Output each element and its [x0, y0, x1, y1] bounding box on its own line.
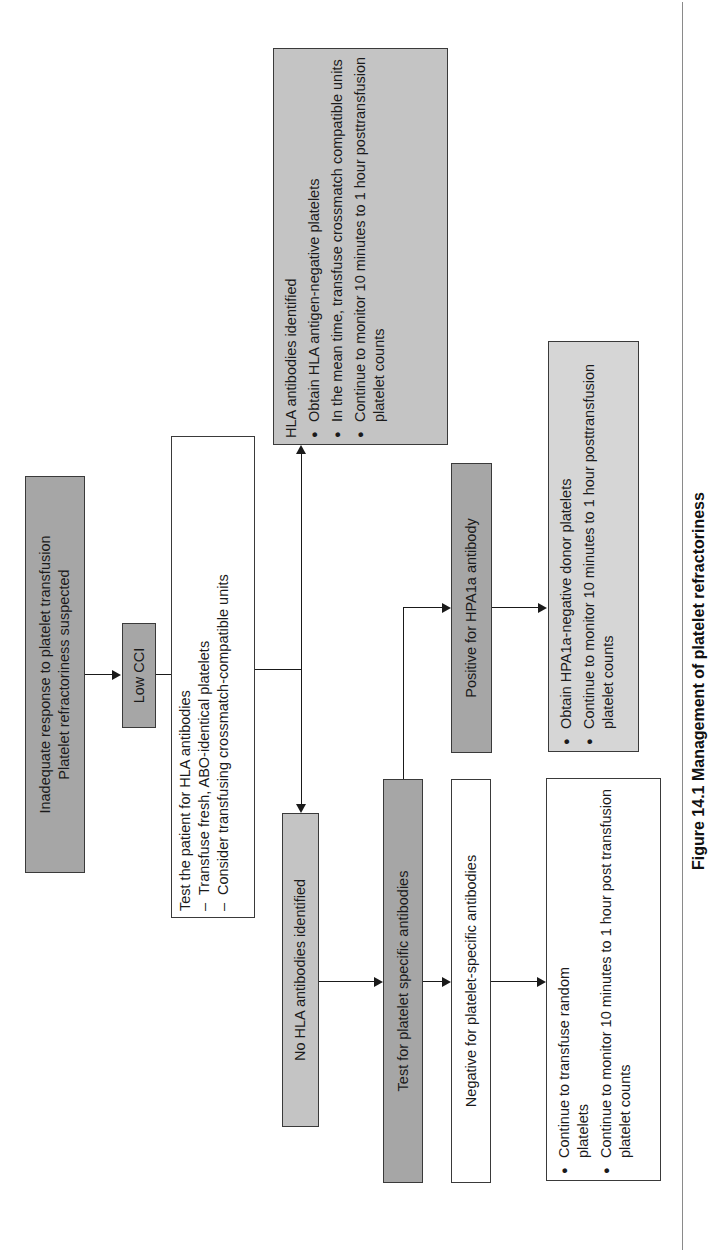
hla-identified-item: In the mean time, transfuse crossmatch c… — [328, 55, 347, 438]
hpa1a-action-item: Obtain HPA1a-negative donor platelets — [557, 348, 576, 745]
hla-identified-list: Obtain HLA antigen-negative platelets In… — [305, 55, 389, 438]
negative-label: Negative for platelet-specific antibodie… — [462, 855, 481, 1107]
test-hla-item: Transfuse fresh, ABO-identical platelets — [195, 443, 214, 911]
arrowhead-icon — [296, 804, 306, 813]
arrowhead-icon — [538, 603, 547, 613]
arrowhead-icon — [112, 670, 121, 680]
low-cci-box: Low CCI — [122, 623, 156, 728]
connector-positive-to-actions — [492, 607, 539, 608]
hla-identified-item: Continue to monitor 10 minutes to 1 hour… — [351, 55, 389, 438]
test-hla-box: Test the patient for HLA antibodies Tran… — [171, 436, 255, 918]
arrowhead-icon — [442, 603, 451, 613]
arrowhead-icon — [296, 445, 306, 454]
negative-actions-box: Continue to transfuse random platelets C… — [546, 778, 661, 1181]
positive-hpa1a-box: Positive for HPA1a antibody — [451, 463, 492, 753]
no-hla-label: No HLA antibodies identified — [291, 879, 310, 1061]
arrowhead-icon — [374, 977, 383, 987]
test-hla-list: Transfuse fresh, ABO-identical platelets… — [195, 443, 233, 911]
figure-caption: Figure 14.1 Management of platelet refra… — [690, 492, 708, 870]
start-line-2: Platelet refractoriness suspected — [55, 569, 74, 779]
connector-testplatelet-to-positive-drop — [403, 607, 443, 608]
test-hla-title: Test the patient for HLA antibodies — [176, 443, 195, 911]
hpa1a-actions-box: Obtain HPA1a-negative donor platelets Co… — [548, 341, 639, 752]
positive-hpa1a-label: Positive for HPA1a antibody — [462, 518, 481, 697]
connector-testplatelet-to-positive — [403, 608, 404, 779]
hpa1a-action-item: Continue to monitor 10 minutes to 1 hour… — [580, 348, 618, 745]
low-cci-label: Low CCI — [130, 648, 149, 704]
connector-lowcci-to-test — [156, 674, 171, 675]
test-hla-item: Consider transfusing crossmatch-compatib… — [214, 443, 233, 911]
caption-rule — [682, 2, 683, 1250]
hpa1a-actions-list: Obtain HPA1a-negative donor platelets Co… — [557, 348, 618, 745]
arrowhead-icon — [442, 977, 451, 987]
test-platelet-specific-label: Test for platelet specific antibodies — [394, 871, 413, 1092]
negative-action-item: Continue to transfuse random platelets — [555, 785, 593, 1174]
junction-line — [301, 454, 302, 804]
negative-actions-list: Continue to transfuse random platelets C… — [555, 785, 635, 1174]
connector-negative-to-actions — [491, 981, 538, 982]
start-line-1: Inadequate response to platelet transfus… — [36, 535, 55, 813]
negative-box: Negative for platelet-specific antibodie… — [451, 779, 491, 1183]
no-hla-box: No HLA antibodies identified — [282, 813, 319, 1127]
test-platelet-specific-box: Test for platelet specific antibodies — [383, 779, 423, 1183]
connector-nohla-to-testplatelet — [319, 981, 375, 982]
connector-test-to-junction — [255, 669, 301, 670]
hla-identified-title: HLA antibodies identified — [282, 55, 301, 438]
hla-identified-item: Obtain HLA antigen-negative platelets — [305, 55, 324, 438]
negative-action-item: Continue to monitor 10 minutes to 1 hour… — [597, 785, 635, 1174]
hla-identified-box: HLA antibodies identified Obtain HLA ant… — [273, 48, 448, 445]
start-box: Inadequate response to platelet transfus… — [25, 476, 85, 873]
arrowhead-icon — [537, 977, 546, 987]
connector-testplatelet-to-negative — [423, 981, 443, 982]
connector-start-to-lowcci — [85, 674, 113, 675]
